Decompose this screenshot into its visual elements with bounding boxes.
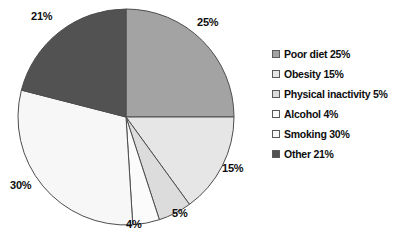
slice-value-label-other: 21% [31,11,52,22]
legend-item-poor-diet[interactable]: Poor diet 25% [272,44,410,63]
legend-item-alcohol[interactable]: Alcohol 4% [272,104,410,123]
legend-swatch-icon [272,150,280,158]
legend-swatch-icon [272,70,280,78]
chart-legend: Poor diet 25%Obesity 15%Physical inactiv… [272,44,410,164]
legend-swatch-icon [272,50,280,58]
slice-value-label-physical-inactivity: 5% [172,208,188,219]
legend-item-label: Obesity 15% [284,68,344,80]
legend-item-label: Poor diet 25% [284,48,350,60]
legend-item-smoking[interactable]: Smoking 30% [272,124,410,143]
slice-value-label-obesity: 15% [222,163,243,174]
pie-plot-area: 25%15%5%4%30%21% [0,0,255,239]
pie-svg [0,0,255,239]
legend-item-label: Alcohol 4% [284,108,338,120]
slice-value-label-smoking: 30% [10,180,31,191]
legend-swatch-icon [272,110,280,118]
pie-chart-figure: 25%15%5%4%30%21% Poor diet 25%Obesity 15… [0,0,411,239]
pie-slices-group [18,9,234,225]
legend-item-physical-inactivity[interactable]: Physical inactivity 5% [272,84,410,103]
legend-item-other[interactable]: Other 21% [272,144,410,163]
legend-item-label: Physical inactivity 5% [284,88,388,100]
legend-swatch-icon [272,90,280,98]
slice-value-label-poor-diet: 25% [197,17,218,28]
legend-item-label: Smoking 30% [284,128,350,140]
slice-value-label-alcohol: 4% [126,219,142,230]
legend-item-label: Other 21% [284,148,334,160]
legend-swatch-icon [272,130,280,138]
legend-item-obesity[interactable]: Obesity 15% [272,64,410,83]
